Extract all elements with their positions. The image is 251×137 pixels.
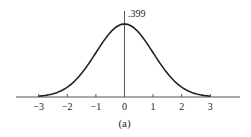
x-tick-label: −1 (91, 101, 102, 112)
peak-label: .399 (128, 8, 146, 19)
x-tick-label: 3 (208, 101, 213, 112)
caption: (a) (118, 117, 131, 130)
x-tick-label: 2 (179, 101, 184, 112)
x-tick-label: −2 (62, 101, 73, 112)
x-tick-label: 1 (151, 101, 156, 112)
x-tick-label: 0 (122, 101, 127, 112)
x-tick-label: −3 (33, 101, 44, 112)
normal-curve-chart: −3−2−10123 .399 (a) (0, 0, 251, 137)
x-tick-labels: −3−2−10123 (33, 101, 212, 112)
